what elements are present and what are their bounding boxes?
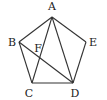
segment-bd [19, 42, 73, 83]
label-c: C [25, 87, 33, 100]
label-a: A [47, 0, 57, 13]
segment-ad [52, 17, 73, 83]
segment-ea [52, 17, 86, 42]
segment-ab [19, 17, 52, 42]
pentagon-diagram: A B C D E F [0, 0, 107, 100]
segment-de [73, 42, 86, 83]
label-f: F [34, 42, 42, 55]
label-b: B [8, 36, 16, 49]
label-e: E [89, 36, 97, 49]
label-d: D [71, 87, 80, 100]
edges [19, 17, 86, 83]
segment-bc [19, 42, 32, 83]
